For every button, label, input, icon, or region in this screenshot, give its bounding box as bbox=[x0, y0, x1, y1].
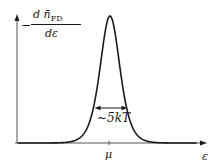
x-axis-label: ε bbox=[202, 151, 208, 162]
y-label-numerator: d n̄FD bbox=[33, 9, 63, 20]
x-axis-arrow-icon bbox=[200, 141, 207, 146]
y-axis-arrow-icon bbox=[15, 14, 20, 21]
fraction-bar bbox=[31, 24, 81, 25]
y-label-numerator-text: d n̄ bbox=[33, 8, 51, 21]
width-arrow-left-icon bbox=[95, 106, 101, 111]
figure: − d n̄FD dε ~5kT μ ε bbox=[0, 0, 220, 167]
y-axis-label: − d n̄FD dε bbox=[20, 8, 86, 42]
y-label-subscript: FD bbox=[51, 14, 63, 23]
mu-tick-label: μ bbox=[105, 149, 112, 160]
width-annotation: ~5kT bbox=[97, 112, 130, 124]
y-label-denominator: dε bbox=[45, 28, 58, 39]
y-label-minus: − bbox=[21, 19, 31, 31]
